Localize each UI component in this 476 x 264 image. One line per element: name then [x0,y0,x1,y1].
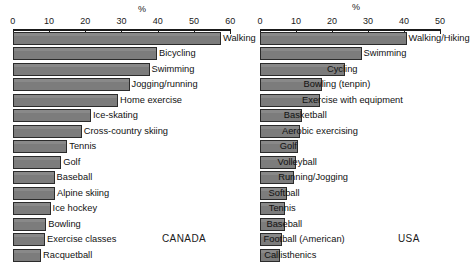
x-axis-usa: 0 10 20 30 40 50 [238,0,476,34]
bar [13,94,118,107]
bar-label: Swimming [152,64,195,75]
bar-row: Alpine skiing [0,186,238,202]
bar-label: Running/Jogging [278,172,348,183]
bar-row: Callisthenics [238,248,476,264]
axis-tick-label-canada: 60 [225,17,235,26]
bar-row: Football (American) [238,233,476,249]
bar-row: Tennis [238,202,476,218]
bar [13,171,55,184]
bar-label: Golf [280,141,297,152]
bar-label: Ice-skating [93,110,138,121]
bar-label: Jogging/running [132,79,198,90]
bar [13,249,42,262]
bar-row: Jogging/running [0,78,238,94]
bar-row: Ice hockey [0,202,238,218]
bar-label: Tennis [269,203,296,214]
bar [13,156,62,169]
bar-label: Tennis [69,141,96,152]
axis-tick-label-canada: 30 [116,17,126,26]
bar-label: Bowling (tenpin) [304,79,371,90]
bar [260,32,407,45]
bar-row: Home exercise [0,93,238,109]
bar-label: Aerobic exercising [282,126,358,137]
bar-row: Tennis [0,140,238,156]
bar-group-canada: Walking Bicycling Swimming Jogging/runni… [0,31,238,264]
x-axis-canada: 0 10 20 30 40 50 60 [0,0,238,34]
bar-label: Alpine skiing [57,188,109,199]
bar-row: Exercise with equipment [238,93,476,109]
bar-label: Basketball [284,110,327,121]
bar-row: Cycling [238,62,476,78]
bar-row: Aerobic exercising [238,124,476,140]
axis-tick-label-usa: 20 [327,17,337,26]
bar-label: Cross-country skiing [84,126,168,137]
bar-row: Swimming [238,47,476,63]
axis-tick-label-canada: 20 [80,17,90,26]
bar-row: Bowling [0,217,238,233]
bar-label: Home exercise [120,95,182,106]
bar-row: Basketball [238,109,476,125]
bar-label: Racquetball [43,250,92,261]
bar-label: Walking/Hiking [409,33,470,44]
bar-label: Baseball [267,219,303,230]
bar-row: Bowling (tenpin) [238,78,476,94]
axis-tick-label-usa: 10 [291,17,301,26]
axis-tick-label-canada: 40 [153,17,163,26]
bar-label: Ice hockey [53,203,97,214]
axis-tick-label-usa: 50 [435,17,445,26]
bar-group-usa: Walking/Hiking Swimming Cycling Bowling … [238,31,476,264]
bar-row: Running/Jogging [238,171,476,187]
bar [13,78,130,91]
bar-row: Walking [0,31,238,47]
bar-row: Golf [238,140,476,156]
bar-row: Ice-skating [0,109,238,125]
bar-label: Bowling [48,219,81,230]
axis-tick-label-usa: 0 [257,17,262,26]
chart-panel-canada: % 0 10 20 30 40 50 60 Walking Bicycling … [0,0,238,252]
panel-title-usa: USA [398,234,420,244]
axis-tick-label-canada: 0 [10,17,15,26]
bar [13,109,91,122]
panel-title-canada: CANADA [162,234,206,244]
axis-tick-label-canada: 10 [44,17,54,26]
axis-tick-label-usa: 30 [363,17,373,26]
bar-label: Swimming [364,48,407,59]
bar-label: Softball [269,188,300,199]
bar-row: Bicycling [0,47,238,63]
bar-label: Football (American) [264,234,345,245]
bar-row: Golf [0,155,238,171]
bar-label: Exercise classes [47,234,116,245]
bar [13,140,68,153]
bar [13,63,150,76]
bar-label: Bicycling [159,48,196,59]
chart-panel-usa: % 0 10 20 30 40 50 Walking/Hiking Swimmi… [238,0,476,252]
bar-label: Cycling [327,64,357,75]
bar [13,47,158,60]
bar [13,125,82,138]
bar [13,218,47,231]
bar-row: Softball [238,186,476,202]
bar-label: Volleyball [278,157,317,168]
axis-tick-label-usa: 40 [399,17,409,26]
bar-row: Racquetball [0,248,238,264]
bar-row: Volleyball [238,155,476,171]
bar-label: Exercise with equipment [302,95,403,106]
axis-tick-label-canada: 50 [189,17,199,26]
bar [13,233,46,246]
bar-row: Swimming [0,62,238,78]
bar [13,32,221,45]
bar-label: Golf [63,157,80,168]
bar [13,187,56,200]
bar [260,47,362,60]
bar-row: Baseball [238,217,476,233]
bar-row: Baseball [0,171,238,187]
bar-row: Walking/Hiking [238,31,476,47]
bar [13,202,51,215]
bar-label: Callisthenics [264,250,316,261]
bar-label: Baseball [57,172,93,183]
bar-row: Cross-country skiing [0,124,238,140]
